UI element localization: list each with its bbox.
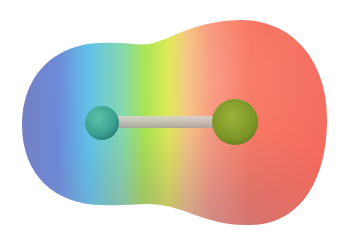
- potential-map-figure: Electrostatic potential map of a diatomi…: [0, 0, 350, 243]
- small-atom-sphere: [85, 106, 119, 140]
- large-atom-sphere: [212, 99, 258, 145]
- bond-stick: [112, 116, 222, 128]
- molecule-surface-graphic: [0, 0, 350, 243]
